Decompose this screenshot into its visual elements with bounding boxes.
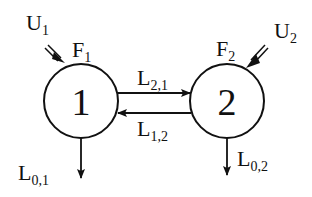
- input-arrow-2: [246, 45, 268, 68]
- compartment-2-label: 2: [218, 81, 237, 123]
- output-label-2: L0,2: [237, 146, 268, 174]
- compartment-1-label: 1: [72, 81, 91, 123]
- compartment-1: 1: [44, 64, 118, 138]
- edge-label-2-1: L2,1: [137, 65, 168, 93]
- input-label-1: U1: [26, 10, 49, 38]
- compartment-2: 2: [190, 64, 264, 138]
- flow-label-2: F2: [216, 36, 235, 64]
- edge-label-1-2: L1,2: [137, 116, 168, 144]
- output-label-1: L0,1: [18, 160, 49, 188]
- input-label-2: U2: [274, 18, 297, 46]
- input-arrow-1: [45, 45, 65, 63]
- compartment-diagram: 1 2 U1 F1 F2 U2 L2,1 L1,2 L0,1 L0,2: [0, 0, 312, 197]
- flow-label-1: F1: [72, 37, 91, 65]
